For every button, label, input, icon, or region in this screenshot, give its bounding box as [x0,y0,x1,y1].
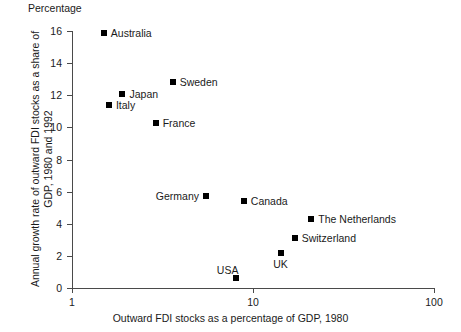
data-point-label: Australia [111,27,152,38]
y-tick-label: 10 [44,122,62,132]
y-tick-mark [67,192,72,193]
x-tick-label: 100 [414,296,454,308]
data-point-marker [153,120,159,126]
unit-caption: Percentage [28,2,82,14]
data-point-label: UK [273,259,288,270]
y-tick-mark [67,224,72,225]
data-point-label: Italy [116,99,135,110]
y-tick-mark [67,127,72,128]
data-point-marker [101,30,107,36]
x-tick-label: 10 [233,296,273,308]
data-point-marker [170,79,176,85]
y-tick-label: 0 [44,283,62,293]
y-tick-label: 4 [44,219,62,229]
data-point-marker [308,216,314,222]
scatter-chart-figure: Percentage Annual growth rate of outward… [0,0,461,332]
y-axis-title-line1: Annual growth rate of outward FDI stocks… [29,24,42,294]
x-axis-title: Outward FDI stocks as a percentage of GD… [0,312,461,324]
y-tick-label: 14 [44,58,62,68]
data-point-label: The Netherlands [318,213,396,224]
y-tick-mark [67,95,72,96]
data-point-label: USA [217,265,239,276]
x-tick-mark [253,288,254,293]
y-axis-line [72,31,73,288]
data-point-marker [241,198,247,204]
x-tick-mark [72,288,73,293]
data-point-marker [119,91,125,97]
y-tick-label: 16 [44,26,62,36]
data-point-label: Sweden [180,77,218,88]
data-point-marker [278,250,284,256]
y-tick-label: 2 [44,251,62,261]
x-tick-mark [434,288,435,293]
data-point-label: Germany [156,191,199,202]
data-point-marker [292,235,298,241]
y-tick-label: 12 [44,90,62,100]
y-tick-mark [67,256,72,257]
y-tick-mark [67,31,72,32]
data-point-marker [106,102,112,108]
data-point-marker [203,193,209,199]
x-tick-label: 1 [52,296,92,308]
y-tick-label: 8 [44,155,62,165]
y-tick-mark [67,63,72,64]
y-tick-mark [67,160,72,161]
data-point-label: Canada [251,196,288,207]
data-point-label: Switzerland [302,233,356,244]
data-point-label: France [163,117,196,128]
y-tick-label: 6 [44,187,62,197]
